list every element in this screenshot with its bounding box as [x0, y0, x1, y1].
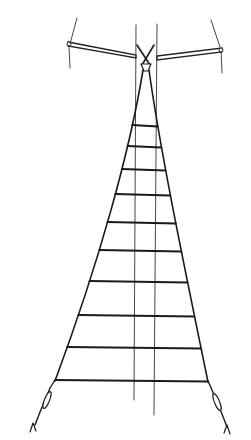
rung-9 — [67, 347, 200, 349]
rung-3 — [122, 169, 165, 171]
rope-ladder-drawing — [0, 0, 251, 440]
right-post-top — [211, 20, 220, 47]
spreader-bar-left — [68, 42, 136, 58]
side-ropes — [55, 70, 208, 382]
left-side-rope — [55, 70, 143, 381]
left-post-top — [70, 18, 77, 44]
left-post-bottom — [69, 46, 70, 68]
rung-1 — [132, 125, 157, 127]
rung-8 — [78, 315, 194, 317]
rung-4 — [115, 194, 170, 196]
right-side-rope — [149, 70, 208, 382]
rung-7 — [90, 281, 188, 283]
guide-line-right — [154, 24, 157, 415]
right-bar-end — [219, 48, 223, 52]
rungs — [55, 125, 207, 382]
guide-line-left — [134, 25, 136, 400]
right-end-toggle — [208, 381, 230, 434]
rung-5 — [108, 222, 176, 224]
left-bar-end — [67, 42, 71, 46]
left-end-toggle — [30, 380, 55, 432]
rung-10 — [55, 380, 207, 382]
spreader-bar-right — [157, 48, 222, 60]
rung-6 — [99, 250, 181, 252]
rung-2 — [128, 146, 162, 148]
